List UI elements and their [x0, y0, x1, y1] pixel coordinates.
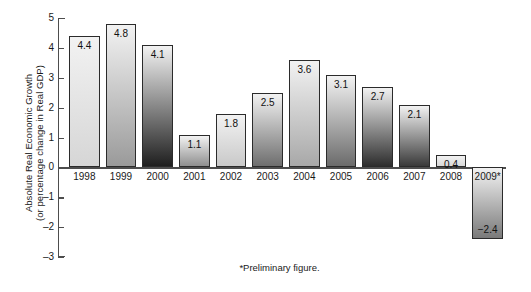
bar: 2.7: [362, 87, 393, 168]
x-axis-label: 2004: [286, 171, 323, 182]
x-axis-label: 1999: [103, 171, 140, 182]
bar: 4.8: [106, 24, 137, 167]
x-axis-label: 2002: [213, 171, 250, 182]
y-axis-title-line-1: Absolute Real Economic Growth: [23, 74, 34, 212]
x-axis-label: 2005: [323, 171, 360, 182]
y-tick-mark: [58, 48, 64, 49]
bar: 2.1: [399, 105, 430, 168]
y-tick: 3: [58, 78, 64, 79]
y-tick-mark: [58, 78, 64, 79]
bar: 0.4: [436, 155, 467, 167]
y-tick-label: –2: [43, 222, 54, 232]
y-tick-label: 3: [48, 73, 54, 83]
bar: 3.1: [326, 75, 357, 168]
y-tick: 5: [58, 18, 64, 19]
bar-value-label: −2.4: [473, 224, 502, 235]
y-tick: –1: [58, 197, 64, 198]
x-axis-label: 2007: [396, 171, 433, 182]
y-tick-label: –1: [43, 192, 54, 202]
y-tick-mark: [58, 197, 64, 198]
bar: 4.1: [142, 45, 173, 167]
y-tick-label: 0: [48, 162, 54, 172]
bar-value-label: 4.8: [107, 28, 136, 39]
x-axis-label: 2001: [176, 171, 213, 182]
x-axis-label: 2009*: [469, 171, 506, 182]
bar-value-label: 4.1: [143, 49, 172, 60]
y-tick-mark: [58, 108, 64, 109]
bar: 3.6: [289, 60, 320, 168]
bar-value-label: 1.8: [217, 118, 246, 129]
y-tick: –3: [58, 257, 64, 258]
y-tick: 0: [58, 167, 64, 168]
y-tick-mark: [58, 257, 64, 258]
y-tick-mark: [58, 18, 64, 19]
x-axis-label: 2008: [433, 171, 470, 182]
footnote-text: *Preliminary figure.: [239, 262, 319, 273]
x-axis-label: 2003: [249, 171, 286, 182]
y-tick: 4: [58, 48, 64, 49]
bar: 1.8: [216, 114, 247, 168]
x-axis-label: 2006: [359, 171, 396, 182]
y-tick-label: –3: [43, 252, 54, 262]
bar: 2.5: [252, 93, 283, 168]
bar-value-label: 4.4: [70, 40, 99, 51]
y-tick: 1: [58, 138, 64, 139]
bar-value-label: 2.7: [363, 91, 392, 102]
bar-value-label: 1.1: [180, 139, 209, 150]
y-tick-label: 1: [48, 133, 54, 143]
y-tick-mark: [58, 138, 64, 139]
bar-value-label: 2.5: [253, 97, 282, 108]
bar-value-label: 0.4: [437, 159, 466, 170]
plot-area: 543210–1–2–34.419984.819994.120001.12001…: [66, 18, 506, 257]
footnote: *Preliminary figure.: [0, 262, 531, 273]
bar-chart: Absolute Real Economic Growth (or percen…: [0, 0, 531, 292]
bar: 1.1: [179, 135, 210, 168]
y-tick-label: 5: [48, 13, 54, 23]
x-axis-label: 1998: [66, 171, 103, 182]
bar-value-label: 2.1: [400, 109, 429, 120]
y-tick-mark: [58, 227, 64, 228]
y-tick: 2: [58, 108, 64, 109]
bar-value-label: 3.1: [327, 79, 356, 90]
bar-value-label: 3.6: [290, 64, 319, 75]
y-tick: –2: [58, 227, 64, 228]
bar: 4.4: [69, 36, 100, 167]
y-tick-label: 4: [48, 43, 54, 53]
x-axis-label: 2000: [139, 171, 176, 182]
y-tick-label: 2: [48, 103, 54, 113]
y-tick-mark: [58, 167, 64, 168]
